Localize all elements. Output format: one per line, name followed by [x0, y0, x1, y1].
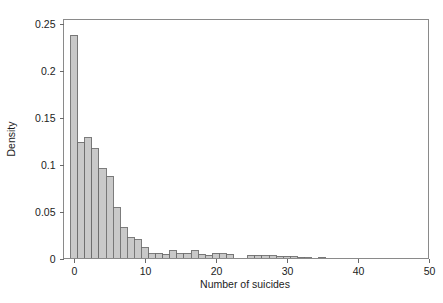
- histogram-bar: [85, 138, 92, 259]
- x-tick-label: 10: [140, 265, 152, 277]
- histogram-bar: [92, 149, 99, 259]
- y-tick-label: 0.25: [35, 18, 56, 30]
- histogram-bar: [71, 35, 78, 258]
- y-tick-label: 0.05: [35, 206, 56, 218]
- y-tick-label: 0.1: [41, 159, 56, 171]
- histogram-bar: [163, 254, 170, 258]
- histogram-bar: [156, 253, 163, 258]
- histogram-bar: [177, 254, 184, 259]
- x-axis-title: Number of suicides: [200, 278, 290, 290]
- y-axis-title: Density: [5, 121, 17, 157]
- x-tick-label: 30: [282, 265, 294, 277]
- histogram-bar: [78, 142, 85, 258]
- histogram-bar: [184, 253, 191, 258]
- histogram-bar: [106, 176, 113, 258]
- histogram-bar: [134, 240, 141, 259]
- histogram-bar: [219, 254, 226, 259]
- histogram-bar: [170, 251, 177, 259]
- x-tick-label: 50: [424, 265, 436, 277]
- histogram-bar: [99, 169, 106, 259]
- x-tick-label: 0: [72, 265, 78, 277]
- y-tick-label: 0.2: [41, 65, 56, 77]
- y-tick-label: 0: [50, 253, 56, 265]
- histogram-bar: [191, 251, 198, 259]
- histogram-bar: [113, 208, 120, 259]
- histogram-figure: 01020304050 00.050.10.150.20.25 Number o…: [0, 0, 443, 303]
- histogram-bar: [212, 253, 219, 258]
- histogram-bar: [141, 248, 148, 259]
- histogram-plot: 01020304050 00.050.10.150.20.25 Number o…: [0, 0, 443, 303]
- histogram-bar: [149, 254, 156, 259]
- histogram-bar: [227, 254, 234, 258]
- x-tick-label: 20: [211, 265, 223, 277]
- histogram-bar: [198, 254, 205, 258]
- histogram-bar: [120, 228, 127, 259]
- histogram-bar: [127, 238, 134, 259]
- x-tick-label: 40: [353, 265, 365, 277]
- y-tick-label: 0.15: [35, 112, 56, 124]
